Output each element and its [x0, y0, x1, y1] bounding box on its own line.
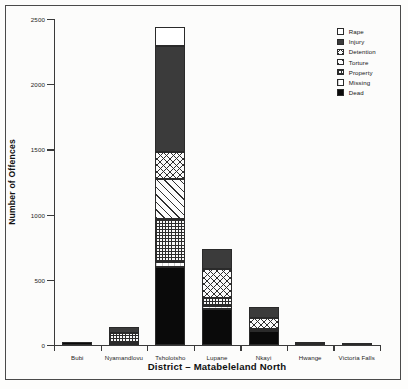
bar-segment-missing[interactable]: [202, 306, 232, 309]
legend-item-missing[interactable]: Missing: [337, 78, 376, 87]
bar-segment-detention[interactable]: [202, 269, 232, 298]
x-axis-tick: [287, 345, 288, 351]
bar-segment-torture[interactable]: [155, 179, 185, 218]
legend-item-injury[interactable]: Injury: [337, 37, 376, 46]
legend-item-rape[interactable]: Rape: [337, 27, 376, 36]
legend-swatch-torture: [337, 59, 344, 65]
bar-segment-dead[interactable]: [155, 267, 185, 345]
x-axis-tick: [147, 345, 148, 351]
x-axis-tick-label: Nyamandlovu: [105, 354, 143, 361]
x-axis-tick-label: Bubi: [71, 354, 84, 361]
plot-area: 05001000150020002500BubiNyamandlovuTshol…: [54, 19, 380, 345]
bar-bubi[interactable]: [62, 342, 92, 345]
x-axis-tick: [101, 345, 102, 351]
legend-swatch-injury: [337, 39, 344, 45]
y-axis-tick: [47, 345, 54, 346]
legend-item-detention[interactable]: Detention: [337, 47, 376, 56]
legend-label: Torture: [349, 59, 369, 66]
bar-segment-dead[interactable]: [109, 343, 139, 345]
chart-page: Number of Offences District – Matabelela…: [0, 0, 408, 389]
legend-label: Injury: [349, 38, 365, 45]
legend-item-property[interactable]: Property: [337, 68, 376, 77]
y-axis-tick: [47, 280, 54, 281]
y-axis-tick-label: 0: [41, 342, 45, 349]
y-axis-tick-label: 1500: [31, 146, 45, 153]
legend-label: Rape: [349, 28, 364, 35]
bar-tsholotsho[interactable]: [155, 27, 185, 345]
bar-segment-dead[interactable]: [62, 342, 92, 345]
x-axis-tick: [240, 345, 241, 351]
bar-segment-detention[interactable]: [155, 152, 185, 179]
x-axis-line: [54, 345, 381, 346]
legend-swatch-dead: [337, 89, 344, 95]
bar-segment-rape[interactable]: [155, 27, 185, 47]
bar-segment-property[interactable]: [202, 298, 232, 306]
legend-label: Dead: [349, 89, 364, 96]
bar-segment-dead[interactable]: [249, 331, 279, 345]
bar-nyamandlovu[interactable]: [109, 327, 139, 345]
bar-segment-injury[interactable]: [155, 46, 185, 152]
legend-item-dead[interactable]: Dead: [337, 88, 376, 97]
y-axis-tick-label: 2000: [31, 81, 45, 88]
legend-label: Detention: [349, 48, 376, 55]
bar-segment-property[interactable]: [155, 219, 185, 262]
y-axis-tick-label: 2500: [31, 16, 45, 23]
y-axis-label: Number of Offences: [7, 139, 17, 225]
bar-segment-injury[interactable]: [202, 249, 232, 270]
bar-segment-property[interactable]: [109, 333, 139, 343]
x-axis-tick-label: Victoria Falls: [339, 354, 375, 361]
x-axis-tick-label: Tsholotsho: [155, 354, 185, 361]
x-axis-tick: [54, 345, 55, 351]
y-axis-tick: [47, 84, 54, 85]
legend-swatch-property: [337, 69, 344, 75]
legend-label: Missing: [349, 79, 370, 86]
legend-item-torture[interactable]: Torture: [337, 58, 376, 67]
x-axis-tick-label: Hwange: [299, 354, 322, 361]
y-axis-tick-label: 500: [34, 276, 45, 283]
legend-label: Property: [349, 69, 373, 76]
bar-segment-missing[interactable]: [155, 262, 185, 267]
bar-nkayi[interactable]: [249, 307, 279, 345]
bar-segment-dead[interactable]: [342, 343, 372, 345]
bar-segment-dead[interactable]: [202, 309, 232, 346]
legend-swatch-missing: [337, 79, 344, 85]
bar-segment-injury[interactable]: [249, 307, 279, 318]
legend-swatch-rape: [337, 28, 344, 34]
y-axis-tick: [47, 149, 54, 150]
y-axis-tick: [47, 215, 54, 216]
x-axis-tick: [333, 345, 334, 351]
y-axis-tick: [47, 19, 54, 20]
x-axis-tick: [194, 345, 195, 351]
x-axis-tick-label: Nkayi: [256, 354, 272, 361]
x-axis-tick: [380, 345, 381, 351]
bar-hwange[interactable]: [295, 343, 325, 345]
bar-segment-injury[interactable]: [109, 327, 139, 333]
chart-legend: RapeInjuryDetentionTorturePropertyMissin…: [337, 27, 376, 98]
bar-segment-missing[interactable]: [249, 329, 279, 331]
bar-segment-detention[interactable]: [249, 318, 279, 329]
y-axis-tick-label: 1000: [31, 211, 45, 218]
bar-segment-property[interactable]: [295, 342, 325, 344]
bar-lupane[interactable]: [202, 249, 232, 345]
x-axis-label: District – Matabeleland North: [148, 361, 287, 372]
legend-swatch-detention: [337, 49, 344, 55]
x-axis-tick-label: Lupane: [207, 354, 228, 361]
